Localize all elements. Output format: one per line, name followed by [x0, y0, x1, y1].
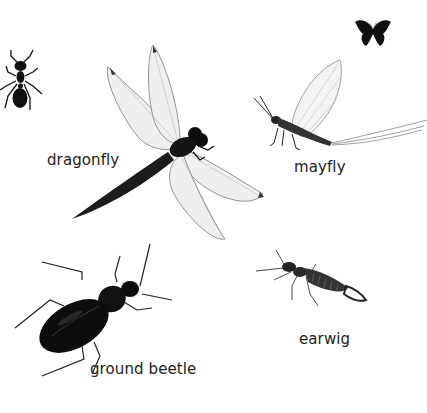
mayfly-illustration — [252, 58, 427, 158]
butterfly-icon — [354, 19, 392, 49]
dragonfly-label: dragonfly — [47, 153, 119, 168]
mayfly-label: mayfly — [294, 160, 346, 175]
ground-beetle-label: ground beetle — [90, 362, 196, 377]
earwig-illustration — [256, 250, 368, 322]
earwig-label: earwig — [299, 332, 350, 347]
dragonfly-illustration — [68, 42, 268, 247]
ant-illustration — [0, 48, 46, 120]
insect-illustration-page: dragonfly mayfly — [0, 0, 427, 413]
